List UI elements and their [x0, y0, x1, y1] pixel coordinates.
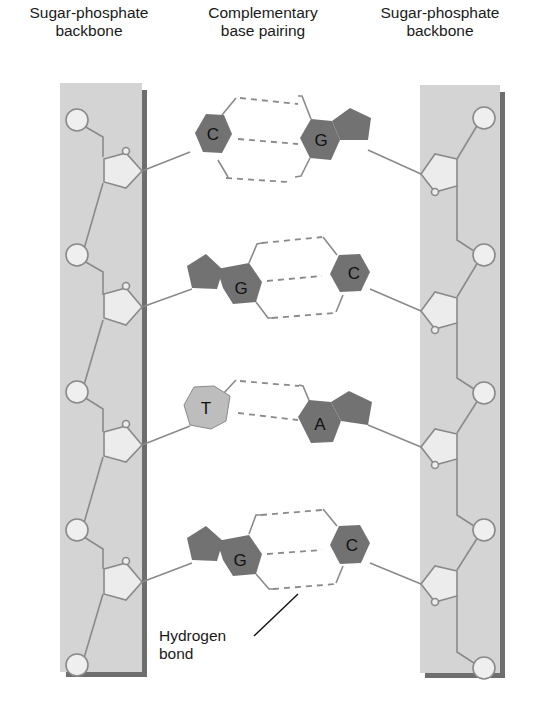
guanine-base: G [187, 526, 262, 576]
base-pair-1: C G [195, 108, 371, 160]
hydrogen-bond-label-line1: Hydrogen [159, 627, 226, 645]
phosphate-icon [473, 519, 495, 541]
phosphate-icon [473, 382, 495, 404]
phosphate-icon [66, 109, 88, 131]
guanine-base: G [187, 254, 262, 304]
hydrogen-bond [238, 413, 298, 420]
hydrogen-bond [273, 584, 336, 589]
annotation-leader-line [254, 594, 298, 636]
cytosine-base: C [330, 525, 370, 564]
hydrogen-bond [240, 381, 299, 386]
hydrogen-bond [238, 139, 298, 144]
cytosine-base: C [195, 114, 232, 153]
base-letter: C [348, 264, 360, 283]
right-backbone-shadow-side [500, 92, 505, 678]
phosphate-icon [66, 654, 88, 676]
phosphate-icon [66, 381, 88, 403]
glycosidic-bonds [142, 150, 421, 584]
hydrogen-bond [226, 178, 288, 182]
hydrogen-bond [261, 510, 322, 515]
base-letter: C [207, 125, 219, 144]
hydrogen-bond [267, 550, 322, 554]
phosphate-icon [66, 519, 88, 541]
base-letter: A [314, 415, 326, 434]
phosphate-icon [473, 657, 495, 679]
phosphate-icon [473, 244, 495, 266]
hydrogen-bond-label-line2: bond [159, 645, 226, 663]
hydrogen-bond [272, 313, 334, 318]
phosphate-icon [66, 244, 88, 266]
guanine-base: G [300, 108, 371, 160]
base-letter: T [201, 399, 211, 418]
base-stubs [218, 96, 343, 589]
hydrogen-bond [262, 237, 322, 243]
base-pair-3: T A [184, 386, 372, 443]
base-letter: G [234, 279, 247, 298]
hydrogen-bond-label: Hydrogen bond [159, 627, 226, 663]
base-letter: G [233, 551, 246, 570]
hydrogen-bonds [226, 98, 336, 589]
hydrogen-bond [267, 276, 322, 281]
base-letter: G [314, 131, 327, 150]
dna-diagram: C G G C T A [0, 0, 558, 701]
base-letter: C [346, 536, 358, 555]
left-backbone-shadow-side [142, 90, 147, 677]
hydrogen-bond [240, 98, 298, 104]
cytosine-base: C [330, 254, 370, 292]
phosphate-icon [473, 107, 495, 129]
thymine-base: T [184, 386, 230, 429]
